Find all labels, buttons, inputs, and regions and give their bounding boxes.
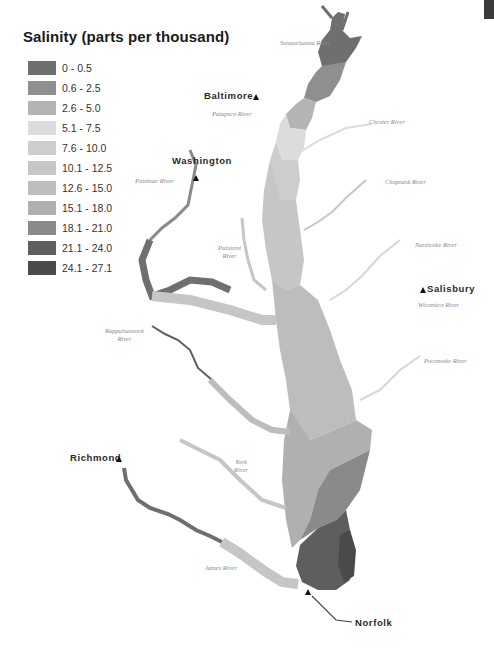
legend-swatch: [28, 61, 56, 75]
norfolk-leader-line: [312, 596, 352, 622]
legend-item: 10.1 - 12.5: [28, 158, 112, 178]
legend-swatch: [28, 241, 56, 255]
legend-swatch: [28, 161, 56, 175]
zone-mid-bay-3: [272, 280, 356, 440]
river-label-susquehanna: Susquehanna River: [280, 39, 330, 47]
river-label-rappahannock: Rappahannock River: [105, 327, 144, 343]
river-label-nanticoke: Nanticoke River: [415, 241, 457, 249]
rappahannock-lower: [210, 380, 290, 432]
legend-swatch: [28, 81, 56, 95]
washington-marker-icon: [193, 175, 199, 181]
legend-swatch: [28, 201, 56, 215]
choptank-river: [304, 180, 366, 230]
legend-item: 18.1 - 21.0: [28, 218, 112, 238]
legend-swatch: [28, 121, 56, 135]
legend-item: 24.1 - 27.1: [28, 258, 112, 278]
river-label-chester: Chester River: [369, 118, 405, 126]
chester-river: [300, 124, 372, 152]
zone-upper-bay-2: [286, 98, 316, 130]
map-title: Salinity (parts per thousand): [23, 28, 229, 45]
legend-item: 5.1 - 7.5: [28, 118, 112, 138]
river-label-york: York River: [234, 458, 248, 474]
legend-swatch: [28, 221, 56, 235]
richmond-marker-icon: [116, 456, 122, 462]
legend-item: 15.1 - 18.0: [28, 198, 112, 218]
salisbury-marker-icon: [420, 287, 426, 293]
legend-swatch: [28, 101, 56, 115]
river-label-pocomoke: Pocomoke River: [424, 357, 467, 365]
rappahannock-river: [152, 326, 286, 430]
city-label-salisbury: Salisbury: [427, 283, 475, 294]
potomac-mouth: [152, 296, 276, 320]
city-label-richmond: Richmond: [70, 452, 121, 463]
legend-item: 2.6 - 5.0: [28, 98, 112, 118]
york-river: [180, 440, 286, 508]
james-river-lower: [222, 542, 298, 584]
legend-swatch: [28, 181, 56, 195]
salinity-legend: 0 - 0.5 0.6 - 2.5 2.6 - 5.0 5.1 - 7.5 7.…: [28, 58, 112, 278]
zone-upper-bay-1: [304, 62, 346, 102]
river-label-patuxent: Patuxent River: [218, 244, 241, 260]
legend-swatch: [28, 261, 56, 275]
legend-item: 21.1 - 24.0: [28, 238, 112, 258]
river-label-james: James River: [205, 564, 237, 572]
river-label-potomac: Potomac River: [135, 177, 174, 185]
legend-item: 0.6 - 2.5: [28, 78, 112, 98]
patuxent-river: [242, 218, 266, 290]
pocomoke-river: [360, 356, 420, 400]
river-label-choptank: Choptank River: [385, 178, 426, 186]
legend-swatch: [28, 141, 56, 155]
city-label-washington: Washington: [172, 155, 232, 166]
river-label-wicomico: Wicomico River: [418, 301, 459, 309]
norfolk-marker-icon: [305, 589, 311, 595]
nanticoke-river: [330, 240, 400, 300]
james-river-upper: [124, 468, 222, 542]
potomac-river-lower: [142, 240, 230, 296]
river-label-patapsco: Patapsco River: [212, 110, 252, 118]
legend-item: 7.6 - 10.0: [28, 138, 112, 158]
city-label-baltimore: Baltimore: [204, 90, 253, 101]
legend-item: 0 - 0.5: [28, 58, 112, 78]
legend-item: 12.6 - 15.0: [28, 178, 112, 198]
baltimore-marker-icon: [253, 94, 259, 100]
city-label-norfolk: Norfolk: [355, 617, 392, 628]
